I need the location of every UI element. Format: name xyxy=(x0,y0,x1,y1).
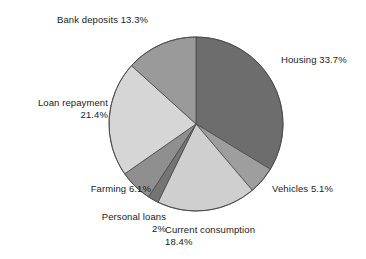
pie-label-housing-text: Housing 33.7% xyxy=(281,54,347,65)
pie-label-current-consumption-name: Current consumption xyxy=(165,224,255,236)
pie-label-loan-repayment-value: 21.4% xyxy=(38,109,108,121)
pie-label-loan-repayment: Loan repayment 21.4% xyxy=(38,97,108,120)
pie-label-personal-loans: Personal loans 2% xyxy=(102,211,166,234)
pie-label-bank-deposits-text: Bank deposits 13.3% xyxy=(57,14,148,25)
pie-chart-figure: Bank deposits 13.3% Housing 33.7% Vehicl… xyxy=(0,0,366,259)
pie-label-bank-deposits: Bank deposits 13.3% xyxy=(57,14,148,26)
pie-label-farming-text: Farming 6.1% xyxy=(91,183,151,194)
pie-label-vehicles-text: Vehicles 5.1% xyxy=(272,183,333,194)
pie-label-farming: Farming 6.1% xyxy=(91,183,151,195)
pie-label-current-consumption: Current consumption 18.4% xyxy=(165,224,255,247)
pie-chart-canvas xyxy=(0,0,366,259)
pie-label-housing: Housing 33.7% xyxy=(281,54,347,66)
pie-label-personal-loans-value: 2% xyxy=(102,223,166,235)
pie-label-vehicles: Vehicles 5.1% xyxy=(272,183,333,195)
pie-label-personal-loans-name: Personal loans xyxy=(102,211,166,223)
pie-label-current-consumption-value: 18.4% xyxy=(165,236,255,248)
pie-label-loan-repayment-name: Loan repayment xyxy=(38,97,108,109)
